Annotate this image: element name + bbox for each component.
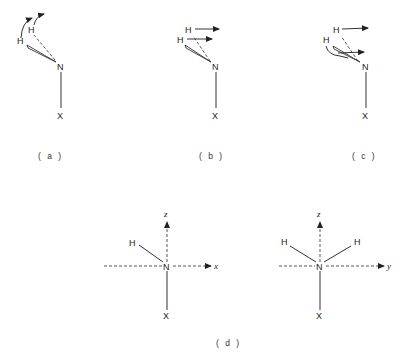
atom-h2: H bbox=[333, 25, 340, 35]
atom-h1: H bbox=[177, 35, 184, 45]
rotation-arrow-icon bbox=[34, 14, 44, 25]
caption-a: ( a ) bbox=[38, 151, 63, 161]
atom-x: X bbox=[57, 111, 63, 121]
panel-d-left: z x H N X bbox=[104, 209, 218, 321]
caption-c: ( c ) bbox=[352, 151, 377, 161]
n-h-wedge-bond bbox=[27, 45, 56, 62]
caption-b: ( b ) bbox=[199, 151, 224, 161]
translation-arrow-icon bbox=[342, 28, 368, 29]
atom-h2: H bbox=[28, 25, 35, 35]
axis-label-y: y bbox=[386, 261, 391, 271]
atom-x: X bbox=[212, 111, 218, 121]
atom-x: X bbox=[362, 111, 368, 121]
atom-n: N bbox=[163, 262, 170, 272]
axis-label-z: z bbox=[316, 209, 321, 219]
atom-x: X bbox=[163, 311, 169, 321]
axis-label-z: z bbox=[163, 209, 168, 219]
atom-h1: H bbox=[281, 237, 288, 247]
n-h1-bond bbox=[290, 246, 316, 262]
curved-motion-arrow-icon bbox=[326, 46, 348, 58]
atom-h1: H bbox=[323, 35, 330, 45]
n-h-wedge-bond bbox=[185, 45, 211, 62]
atom-n: N bbox=[316, 262, 323, 272]
caption-d: ( d ) bbox=[216, 338, 241, 348]
n-h-wedge-bond bbox=[333, 46, 360, 62]
n-h-bond bbox=[139, 245, 163, 262]
panel-a: H H N X ( a ) bbox=[17, 14, 64, 161]
atom-x: X bbox=[316, 311, 322, 321]
translation-arrow-icon bbox=[338, 52, 364, 53]
atom-n: N bbox=[362, 62, 369, 72]
panel-c: H H N X ( c ) bbox=[323, 25, 377, 161]
n-h2-bond bbox=[324, 246, 351, 262]
axis-label-x: x bbox=[213, 261, 218, 271]
n-h-dashed-bond bbox=[193, 36, 210, 61]
panel-d-right: z y H H N X bbox=[279, 209, 391, 321]
atom-n: N bbox=[57, 62, 64, 72]
atom-h: H bbox=[129, 238, 136, 248]
atom-n: N bbox=[212, 62, 219, 72]
atom-h1: H bbox=[17, 36, 24, 46]
atom-h2: H bbox=[185, 25, 192, 35]
panel-b: H H N X ( b ) bbox=[177, 25, 224, 161]
atom-h2: H bbox=[354, 237, 361, 247]
